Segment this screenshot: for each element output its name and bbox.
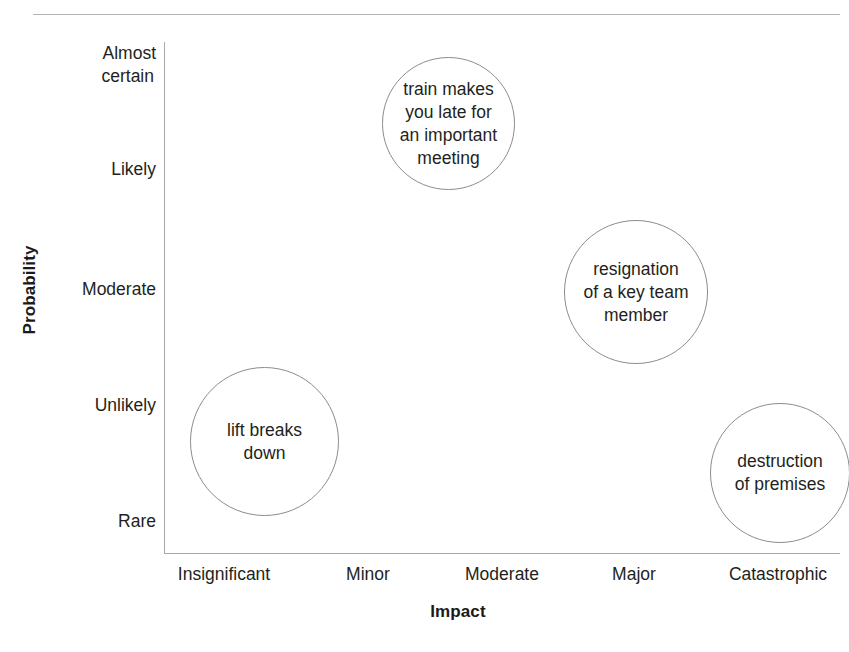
- y-tick-label: Likely: [6, 158, 156, 181]
- bubble-label: resignation of a key team member: [579, 258, 692, 327]
- bubble-destruction-of-premises[interactable]: destruction of premises: [710, 403, 849, 543]
- y-tick-label: Moderate: [6, 278, 156, 301]
- risk-matrix-figure: Probability Impact Almost certain Likely…: [0, 0, 849, 652]
- x-tick-minor: Minor: [346, 563, 390, 585]
- bubble-train-makes-you-late[interactable]: train makes you late for an important me…: [382, 57, 515, 190]
- y-tick-label: Unlikely: [6, 394, 156, 417]
- x-axis-line: [164, 553, 840, 554]
- y-axis-line: [164, 42, 165, 554]
- bubble-resignation-of-key-team-member[interactable]: resignation of a key team member: [564, 220, 708, 364]
- x-tick-moderate: Moderate: [465, 563, 539, 585]
- y-tick-label-line1: Almost: [6, 42, 156, 65]
- bubble-lift-breaks-down[interactable]: lift breaks down: [190, 367, 339, 516]
- x-axis-title: Impact: [383, 602, 533, 622]
- bubble-label: destruction of premises: [731, 450, 829, 496]
- bubble-label: lift breaks down: [223, 419, 306, 465]
- x-tick-catastrophic: Catastrophic: [729, 563, 827, 585]
- y-tick-label-line2: certain: [4, 65, 154, 88]
- top-divider-rule: [33, 14, 840, 15]
- bubble-label: train makes you late for an important me…: [396, 78, 501, 170]
- y-tick-label: Rare: [6, 510, 156, 533]
- y-tick-almost-certain: Almost certain: [4, 42, 156, 65]
- x-tick-insignificant: Insignificant: [178, 563, 270, 585]
- x-tick-major: Major: [612, 563, 656, 585]
